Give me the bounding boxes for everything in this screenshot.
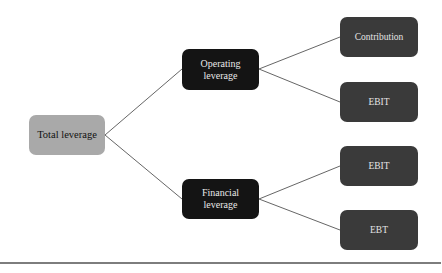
node-label: EBIT [368, 160, 389, 172]
node-label: EBT [370, 224, 388, 236]
node-ebt: EBT [340, 210, 418, 250]
node-label: Total leverage [37, 129, 97, 141]
node-contribution: Contribution [340, 17, 418, 57]
connector-total-financial [105, 135, 182, 199]
node-financial-leverage: Financialleverage [182, 179, 259, 219]
connector-operating-ebit [259, 69, 340, 102]
node-operating-leverage: Operatingleverage [182, 49, 259, 90]
connector-total-operating [105, 69, 182, 135]
node-ebit-operating: EBIT [340, 82, 418, 122]
connector-operating-contribution [259, 37, 340, 69]
node-label: Operatingleverage [201, 58, 241, 82]
node-label: Contribution [355, 31, 404, 43]
node-total-leverage: Total leverage [29, 115, 105, 155]
node-label: Financialleverage [202, 187, 239, 211]
node-label: EBIT [368, 96, 389, 108]
connector-financial-ebt [259, 199, 340, 230]
connector-financial-ebit [259, 166, 340, 199]
node-ebit-financial: EBIT [340, 146, 418, 186]
bottom-divider [0, 262, 441, 264]
